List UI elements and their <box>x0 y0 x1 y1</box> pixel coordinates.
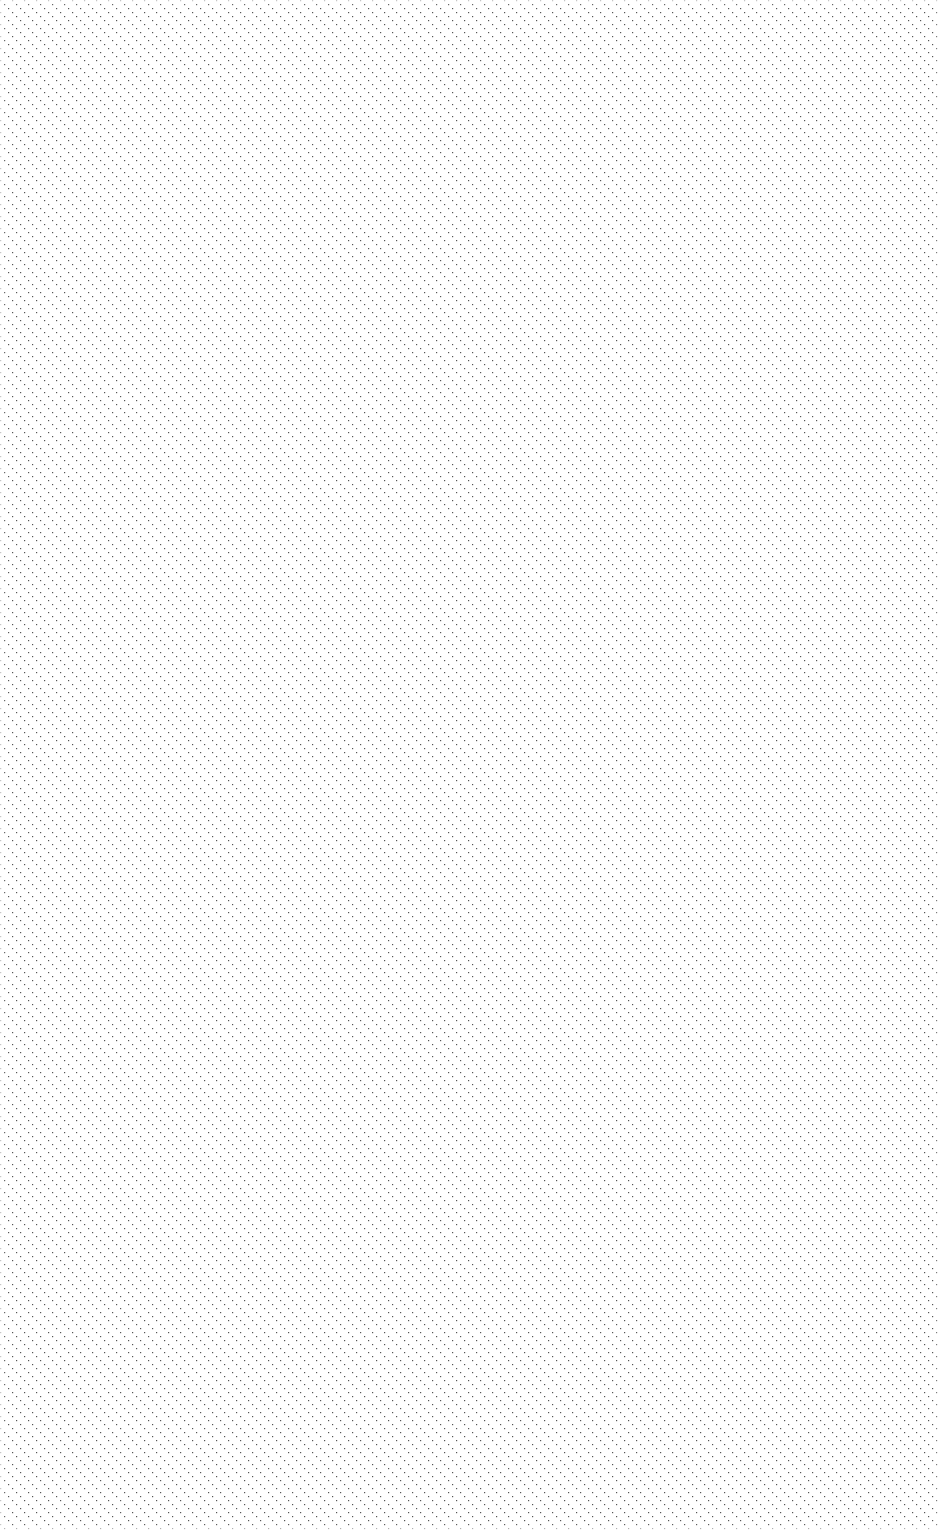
pattern-svg <box>0 0 940 1530</box>
diagonal-dot-pattern <box>0 0 940 1530</box>
